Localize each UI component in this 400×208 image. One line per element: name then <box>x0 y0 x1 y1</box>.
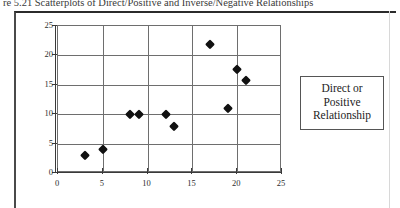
x-axis: 0510152025 <box>55 172 281 173</box>
data-point <box>242 75 251 84</box>
y-axis-tick-label: 20 <box>45 49 54 59</box>
plot-area <box>57 25 281 172</box>
data-point <box>134 110 143 119</box>
data-point <box>224 104 233 113</box>
x-axis-tick-label: 10 <box>142 178 151 188</box>
gridline-horizontal <box>58 55 280 56</box>
x-axis-tick <box>102 168 103 174</box>
y-axis: 0510152025 <box>55 25 56 172</box>
x-axis-tick-label: 25 <box>277 178 286 188</box>
y-axis-tick-label: 5 <box>49 138 53 148</box>
gridline-vertical <box>192 26 193 171</box>
x-axis-tick-label: 15 <box>187 178 196 188</box>
y-axis-tick-label: 15 <box>45 79 54 89</box>
data-point <box>80 151 89 160</box>
data-point <box>98 145 107 154</box>
data-point <box>170 121 179 130</box>
y-axis-tick-label: 25 <box>45 20 54 30</box>
data-point <box>206 39 215 48</box>
x-axis-tick-label: 5 <box>100 178 104 188</box>
figure-caption: re 5.21 Scatterplots of Direct/Positive … <box>3 0 397 9</box>
x-axis-tick <box>281 168 282 174</box>
gridline-horizontal <box>58 85 280 86</box>
annotation-line-1: Direct or <box>303 82 381 96</box>
annotation-line-3: Relationship <box>303 109 381 123</box>
data-point <box>161 110 170 119</box>
data-point <box>233 64 242 73</box>
y-axis-tick-label: 10 <box>45 108 54 118</box>
x-axis-tick-label: 20 <box>232 178 241 188</box>
x-axis-tick <box>191 168 192 174</box>
gridline-vertical <box>148 26 149 171</box>
scatterplot-chart: 0510152025 0510152025 <box>24 18 289 190</box>
gridline-vertical <box>237 26 238 171</box>
annotation-line-2: Positive <box>303 96 381 110</box>
y-axis-tick-label: 0 <box>49 167 53 177</box>
data-point <box>125 110 134 119</box>
page-right-edge <box>389 11 390 208</box>
gridline-horizontal <box>58 144 280 145</box>
x-axis-tick-label: 0 <box>55 178 59 188</box>
x-axis-tick <box>236 168 237 174</box>
x-axis-tick <box>57 168 58 174</box>
x-axis-tick <box>147 168 148 174</box>
annotation-box: Direct or Positive Relationship <box>300 76 384 130</box>
